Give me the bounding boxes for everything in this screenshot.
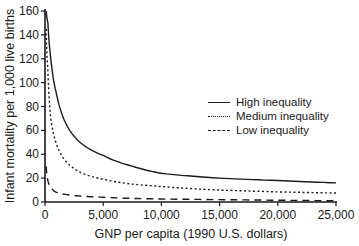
x-tick-label: 15,000 bbox=[201, 208, 238, 222]
legend: High inequality Medium inequality Low in… bbox=[208, 95, 329, 137]
y-axis-label: Infant mortality per 1,000 live births bbox=[3, 9, 17, 204]
y-ticks: 020406080100120140160 bbox=[19, 4, 45, 209]
y-tick-label: 60 bbox=[26, 123, 40, 137]
x-axis-label: GNP per capita (1990 U.S. dollars) bbox=[95, 227, 288, 241]
y-tick-label: 40 bbox=[26, 147, 40, 161]
y-tick-label: 140 bbox=[19, 28, 39, 42]
y-tick-label: 120 bbox=[19, 52, 39, 66]
series-dashed-line bbox=[46, 166, 336, 201]
legend-label: High inequality bbox=[236, 95, 311, 109]
x-tick-label: 10,000 bbox=[143, 208, 180, 222]
x-ticks: 05,00010,00015,00020,00025,000 bbox=[42, 202, 355, 222]
x-tick-label: 5,000 bbox=[88, 208, 118, 222]
legend-item-medium: Medium inequality bbox=[208, 109, 329, 123]
y-tick-label: 20 bbox=[26, 171, 40, 185]
y-tick-label: 80 bbox=[26, 100, 40, 114]
y-tick-label: 160 bbox=[19, 4, 39, 18]
y-tick-label: 0 bbox=[32, 195, 39, 209]
legend-label: Medium inequality bbox=[236, 109, 329, 123]
solid-line-swatch-icon bbox=[208, 102, 230, 103]
x-tick-label: 25,000 bbox=[318, 208, 355, 222]
dotted-line-swatch-icon bbox=[208, 116, 230, 117]
legend-item-high: High inequality bbox=[208, 95, 329, 109]
x-tick-label: 0 bbox=[42, 208, 49, 222]
y-tick-label: 100 bbox=[19, 76, 39, 90]
legend-item-low: Low inequality bbox=[208, 123, 329, 137]
dashed-line-swatch-icon bbox=[208, 130, 230, 131]
legend-label: Low inequality bbox=[236, 123, 309, 137]
x-tick-label: 20,000 bbox=[259, 208, 296, 222]
